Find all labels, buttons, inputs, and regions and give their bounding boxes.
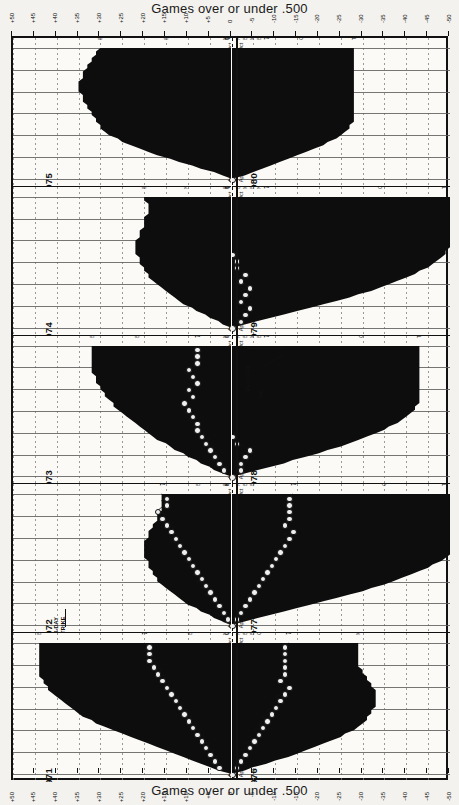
tigers-data-point	[181, 711, 187, 717]
axis-tick-label: -15	[293, 14, 299, 23]
division-spread-band	[232, 197, 450, 328]
team-end-label: BOS 95-65	[98, 38, 103, 40]
season-panel-1971: AprMayJunJulAugSepOct1971BAL 101-57Tiger…	[13, 633, 231, 782]
axis-tick-label: +5	[205, 16, 211, 23]
axis-tick: +30	[98, 14, 99, 36]
tigers-data-point	[286, 685, 292, 691]
tigers-data-point	[256, 583, 262, 589]
tigers-data-point	[194, 421, 200, 427]
season-panel-1975: AprMayJunJulAugSepOct1975BOS 95-65BAL 90…	[13, 38, 231, 187]
team-end-label: BOS 89-73	[135, 336, 140, 338]
tigers-data-point	[229, 325, 231, 331]
axis-tick: -50	[448, 14, 449, 36]
tigers-data-point	[212, 758, 218, 764]
team-end-label: BAL 100-62	[243, 38, 248, 40]
team-end-label: BAL 88-74	[243, 633, 248, 635]
axis-tick: -35	[382, 14, 383, 36]
division-spread-band	[39, 643, 231, 774]
team-end-label: Tigers 91-71	[142, 633, 147, 635]
axis-tick-label: +10	[183, 13, 189, 23]
axis-tick-mark	[339, 768, 340, 773]
tigers-data-point	[282, 664, 288, 670]
tigers-data-point	[168, 529, 174, 535]
team-end-label: NY 89-71	[257, 187, 262, 189]
tigers-data-point	[247, 305, 253, 311]
tigers-data-point	[277, 549, 283, 555]
tigers-data-point	[221, 467, 227, 473]
season-panel-1972: AprMayJunJulAugSepOct1972Tigers 86-70BOS…	[13, 484, 231, 633]
team-end-label: CLE 71-91	[225, 336, 230, 338]
season-panel-1976: AprMayJunJulAugSepOct1976NY 97-62BAL 88-…	[232, 633, 450, 782]
axis-tick-mark	[33, 768, 34, 773]
axis-tick: +10	[186, 14, 187, 36]
tigers-data-point	[194, 569, 200, 575]
axis-tick-label: +25	[118, 13, 124, 23]
axis-tick: +45	[33, 14, 34, 36]
tigers-data-point	[282, 644, 288, 650]
tigers-data-point	[207, 752, 213, 758]
tigers-data-point	[229, 623, 231, 629]
team-end-label: BOS 91-69	[250, 187, 255, 189]
axis-tick: 0	[230, 14, 231, 36]
axis-tick-mark	[251, 768, 252, 773]
playoff-annotation: PLAYOFF	[245, 364, 251, 391]
axis-tick-label: +20	[140, 13, 146, 23]
axis-tick-label: -50	[446, 14, 452, 23]
tigers-data-point	[269, 563, 275, 569]
tigers-data-point	[251, 738, 257, 744]
team-end-label: BAL 91-71	[142, 187, 147, 189]
team-end-label: Tigers 74-87	[286, 633, 291, 635]
axis-tick-label: +40	[52, 13, 58, 23]
axis-tick: -20	[317, 14, 318, 36]
team-end-label: MIL 86-76	[250, 38, 255, 40]
division-spread-band	[232, 48, 354, 179]
tigers-data-point	[221, 610, 227, 616]
team-end-label: TOR 53-109	[442, 187, 447, 189]
tigers-data-point	[181, 400, 187, 406]
tigers-data-point	[146, 658, 152, 664]
tigers-data-point	[286, 516, 292, 522]
team-end-label: CLE 81-80	[378, 187, 383, 189]
axis-tick-mark	[186, 768, 187, 773]
division-spread-band	[232, 494, 450, 625]
tigers-data-point	[216, 461, 222, 467]
axis-tick-mark	[11, 768, 12, 773]
panel-series-svg	[13, 484, 231, 633]
tigers-data-point	[194, 347, 200, 353]
team-end-label: BAL 90-69	[163, 38, 168, 40]
axis-tick-mark	[361, 768, 362, 773]
tigers-data-point	[247, 285, 253, 291]
team-end-label: BAL 101-57	[37, 633, 42, 635]
season-panel-1974: AprMayJunJulAugSepOct1974BAL 91-71NY 89-…	[13, 187, 231, 336]
panel-plot-area: AprMayJunJulAugSepOct1978NY 100-63BOS 99…	[232, 336, 450, 484]
tigers-data-point	[286, 509, 292, 515]
division-spread-band	[135, 197, 231, 328]
axis-tick-label: -35	[380, 14, 386, 23]
division-spread-band	[232, 346, 419, 477]
panel-series-svg	[232, 38, 450, 187]
season-panel-1973: AprMayJunJulAugSepOct1973BAL 97-65BOS 89…	[13, 336, 231, 485]
tigers-data-point	[286, 502, 292, 508]
axis-tick-mark	[98, 768, 99, 773]
tigers-data-point	[282, 522, 288, 528]
axis-tick-mark	[208, 768, 209, 773]
tigers-data-point	[216, 603, 222, 609]
strike-annotation-line1: 13-DAY	[53, 617, 59, 633]
axis-tick: -30	[361, 14, 362, 36]
axis-tick-mark	[77, 768, 78, 773]
tigers-data-point	[282, 671, 288, 677]
value-axis-ruler-top: +50+45+40+35+30+25+20+15+10+50-5-10-15-2…	[11, 14, 448, 36]
tigers-data-point	[242, 752, 248, 758]
axis-tick-mark	[426, 768, 427, 773]
team-end-label: CLE 79-81	[299, 38, 304, 40]
division-spread-band	[79, 48, 232, 179]
team-end-label: CLE 81-78	[257, 633, 262, 635]
axis-tick: -40	[404, 14, 405, 36]
panel-plot-area: AprMayJunJulAugSepOct1980NY 103-59BAL 10…	[232, 38, 450, 186]
column-divider	[236, 36, 238, 780]
tigers-data-point	[256, 732, 262, 738]
year-label-1973: 1973	[43, 470, 54, 484]
team-end-label: BAL 90-71	[257, 336, 262, 338]
season-panel-1980: AprMayJunJulAugSepOct1980NY 103-59BAL 10…	[232, 38, 450, 187]
axis-tick-mark	[448, 31, 449, 36]
